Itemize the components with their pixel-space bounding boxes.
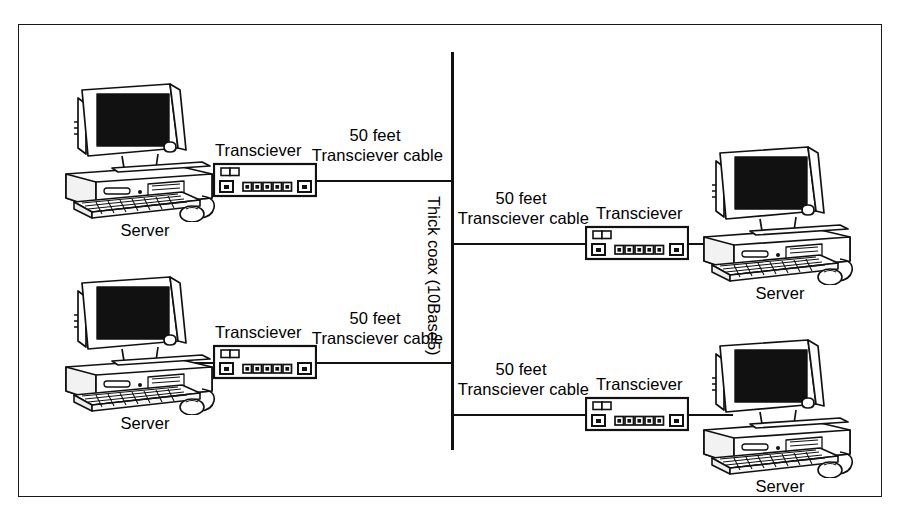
server-label-top-left: Server — [85, 222, 205, 239]
server-computer-top-left — [52, 62, 220, 222]
cable-length-bottom-left: 50 feet — [320, 310, 430, 327]
server-label-top-right: Server — [720, 285, 840, 302]
transceiver-bottom-right — [585, 396, 689, 432]
transceiver-label-top-right: Transciever — [596, 205, 683, 222]
transceiver-label-bottom-right: Transciever — [596, 376, 683, 393]
cable-label-top-right: Transciever cable — [456, 210, 591, 227]
transceiver-top-right — [585, 225, 689, 261]
cable-label-bottom-right: Transciever cable — [456, 381, 591, 398]
server-computer-bottom-left — [52, 255, 220, 415]
diagram-canvas: Thick coax (10Base5) 50 feet Transciever… — [0, 0, 901, 525]
cable-length-top-left: 50 feet — [320, 127, 430, 144]
transceiver-label-top-left: Transciever — [215, 142, 302, 159]
server-label-bottom-left: Server — [85, 415, 205, 432]
cable-length-top-right: 50 feet — [466, 190, 576, 207]
server-computer-bottom-right — [690, 318, 858, 478]
cable-length-bottom-right: 50 feet — [466, 361, 576, 378]
server-label-bottom-right: Server — [720, 478, 840, 495]
server-computer-top-right — [690, 125, 858, 285]
cable-label-top-left: Transciever cable — [310, 147, 445, 164]
transceiver-top-left — [213, 162, 317, 198]
transceiver-bottom-left — [213, 344, 317, 380]
cable-label-bottom-left: Transciever cable — [310, 330, 445, 347]
transceiver-label-bottom-left: Transciever — [215, 324, 302, 341]
thick-coax-backbone — [451, 52, 454, 450]
